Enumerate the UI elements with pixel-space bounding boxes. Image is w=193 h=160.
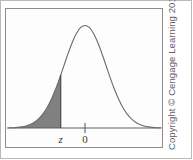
chart-render-target — [7, 25, 161, 133]
figure-root: z 0 Copyright © Cengage Learning 2013 — [0, 0, 193, 160]
curve-fill — [9, 25, 161, 128]
shaded-left-tail-region — [9, 75, 61, 128]
normal-curve-chart — [6, 9, 162, 147]
plot-box: z 0 — [5, 8, 163, 148]
copyright-credit: Copyright © Cengage Learning 2013 — [165, 0, 189, 150]
axis-tick-label-zero: 0 — [77, 134, 93, 145]
axis-tick-label-z: z — [53, 134, 69, 145]
